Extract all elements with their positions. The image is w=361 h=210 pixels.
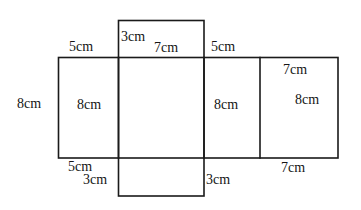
diagram-canvas: 8cm 5cm 3cm 7cm 5cm 7cm 8cm 8cm 8cm 5cm … xyxy=(0,0,361,210)
label-middle-top-right: 7cm xyxy=(154,40,178,55)
label-right-bottom: 7cm xyxy=(281,160,305,175)
label-right-top-inner: 7cm xyxy=(283,62,307,77)
label-middle-bottom-right: 3cm xyxy=(206,172,230,187)
label-left-outer-height: 8cm xyxy=(17,96,41,111)
label-left-inner-height: 8cm xyxy=(77,97,101,112)
label-left-bottom-depth: 3cm xyxy=(83,172,107,187)
label-third-inner-height: 8cm xyxy=(214,97,238,112)
label-third-top: 5cm xyxy=(211,39,235,54)
label-middle-top-left: 3cm xyxy=(121,29,145,44)
label-right-inner-height: 8cm xyxy=(295,92,319,107)
label-left-top: 5cm xyxy=(69,39,93,54)
